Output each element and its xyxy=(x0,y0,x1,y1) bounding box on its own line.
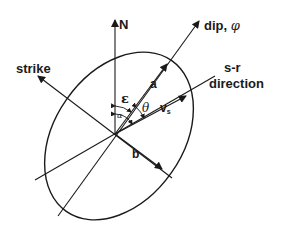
semi-minor-label: b xyxy=(132,147,139,161)
sr-label-line2: direction xyxy=(209,76,264,91)
sr-label-line1: s-r xyxy=(224,60,241,75)
diagram-canvas: N dip, φ strike s-r direction a b vs ε θ… xyxy=(0,0,289,232)
ellipse-geometry-diagram: N dip, φ strike s-r direction a b vs ε θ… xyxy=(0,0,289,232)
semi-major-label: a xyxy=(150,77,157,91)
epsilon-label: ε xyxy=(121,91,129,106)
strike-label: strike xyxy=(16,61,51,76)
north-label: N xyxy=(119,17,128,32)
theta-label: θ xyxy=(142,101,150,115)
alpha-label: α xyxy=(117,111,123,120)
dip-label: dip, φ xyxy=(204,18,241,33)
dip-axis xyxy=(58,21,199,216)
strike-axis xyxy=(38,76,172,178)
